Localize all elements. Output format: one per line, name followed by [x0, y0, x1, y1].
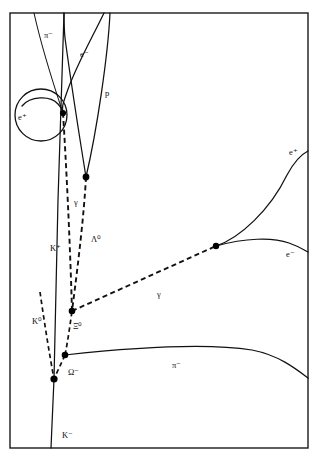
label-e-minus-top: e⁻ — [80, 49, 89, 59]
label-xi-zero: Ξ⁰ — [73, 321, 82, 331]
track-pi-minus-bottom — [65, 346, 308, 378]
label-k-plus: K⁺ — [50, 243, 61, 253]
bubble-chamber-diagram: π⁻ e⁻ p e⁺ γ Λ⁰ K⁺ K⁰ Ξ⁰ γ Ω⁻ π⁻ K⁻ e⁺ e… — [0, 0, 317, 458]
bubble-chamber-canvas: π⁻ e⁻ p e⁺ γ Λ⁰ K⁺ K⁰ Ξ⁰ γ Ω⁻ π⁻ K⁻ e⁺ e… — [0, 0, 317, 458]
track-gamma-upper — [63, 113, 72, 311]
label-proton: p — [105, 88, 109, 98]
vertex-lambda-decay — [83, 174, 90, 181]
track-k-minus — [51, 379, 54, 448]
track-e-plus-spiral-inner — [22, 98, 63, 113]
vertex-omega-production — [50, 375, 57, 382]
label-pi-minus-bottom: π⁻ — [172, 360, 181, 370]
label-e-plus-spiral: e⁺ — [18, 112, 27, 122]
vertex-gamma-conversion-upper — [60, 110, 66, 116]
chamber-frame — [10, 13, 308, 448]
label-k-minus: K⁻ — [62, 430, 73, 440]
track-k-plus — [54, 13, 64, 379]
label-e-minus-right: e⁻ — [286, 249, 295, 259]
label-lambda-zero: Λ⁰ — [91, 234, 101, 244]
track-e-plus-right — [216, 151, 308, 246]
track-gamma-lower — [72, 246, 216, 311]
track-omega-minus-segment — [54, 355, 65, 379]
label-e-plus-right: e⁺ — [289, 147, 298, 157]
label-k-zero: K⁰ — [32, 316, 42, 326]
vertex-gamma-conversion-right — [213, 243, 219, 249]
track-xi-zero — [65, 311, 72, 355]
label-gamma-upper: γ — [73, 197, 78, 207]
vertex-omega-decay — [62, 352, 69, 359]
track-lambda-branch-left — [64, 13, 86, 177]
label-gamma-lower: γ — [156, 289, 161, 299]
label-omega-minus: Ω⁻ — [68, 367, 79, 377]
label-pi-minus-top: π⁻ — [44, 30, 53, 40]
vertex-xi-zero-decay — [69, 308, 76, 315]
track-k-zero — [40, 292, 54, 379]
